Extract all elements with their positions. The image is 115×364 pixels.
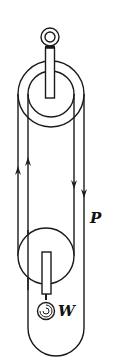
direction-arrows <box>15 157 87 198</box>
force-label-p: P <box>90 211 101 226</box>
support-ring <box>41 28 59 46</box>
weight-label-w: W <box>58 304 75 319</box>
weight <box>38 294 55 320</box>
lower-pulley <box>18 228 74 294</box>
